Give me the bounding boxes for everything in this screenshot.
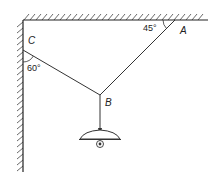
angle-arc-A xyxy=(163,20,167,29)
label-point-A: A xyxy=(180,26,187,36)
label-point-C: C xyxy=(28,36,35,46)
angle-arc-C xyxy=(23,56,33,62)
wall-hatching xyxy=(17,22,23,171)
diagram-canvas: A B C 45° 60° xyxy=(0,0,218,182)
ceiling-hatching xyxy=(24,14,203,20)
label-point-B: B xyxy=(105,98,112,108)
angle-label-C: 60° xyxy=(27,64,41,73)
cord-AB xyxy=(100,20,175,95)
angle-label-A: 45° xyxy=(143,24,157,33)
lamp-icon xyxy=(79,128,121,148)
